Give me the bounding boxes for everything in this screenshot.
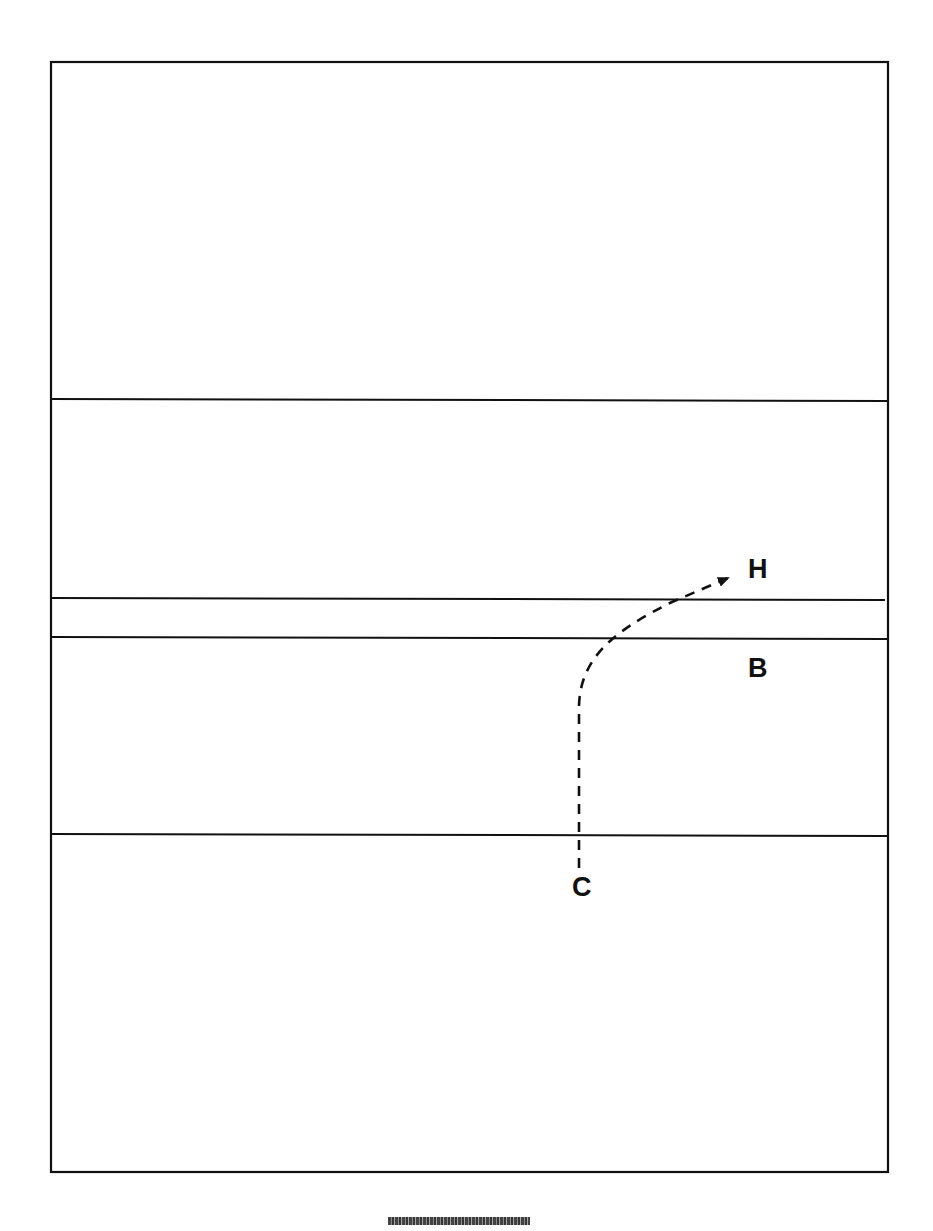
diagram-canvas: H B C <box>0 0 933 1231</box>
footer-code-scribble <box>388 1217 530 1225</box>
outer-frame <box>51 62 888 1172</box>
divider-line-4 <box>51 834 888 836</box>
divider-line-3 <box>51 637 888 639</box>
dashed-arrow-path <box>579 578 728 868</box>
label-b: B <box>748 653 768 683</box>
divider-line-2 <box>51 598 885 600</box>
label-c: C <box>572 872 592 902</box>
divider-line-1 <box>51 399 888 401</box>
label-h: H <box>748 554 768 584</box>
